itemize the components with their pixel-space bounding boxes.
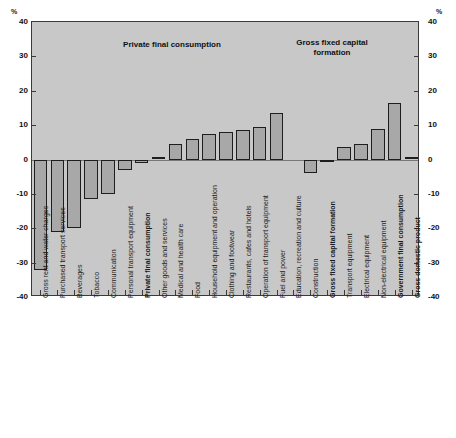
y-tick-mark <box>32 125 36 126</box>
bar[interactable] <box>388 103 401 160</box>
y-tick-label-left: 30 <box>4 51 28 60</box>
y-tick-mark <box>32 228 36 229</box>
x-axis-label: Clothing and footwear <box>228 230 235 298</box>
y-tick-mark <box>414 91 418 92</box>
x-axis-label: Government final consumption <box>397 195 404 298</box>
y-tick-label-right: -10 <box>428 188 452 197</box>
y-tick-mark <box>414 194 418 195</box>
x-axis-label: Personal transport equipment <box>127 206 134 298</box>
y-tick-mark <box>32 194 36 195</box>
y-tick-label-right: -40 <box>428 292 452 301</box>
y-axis-unit-right: % <box>436 8 442 15</box>
x-tick-mark <box>159 290 160 295</box>
y-tick-label-left: -10 <box>4 188 28 197</box>
y-tick-label-right: -20 <box>428 223 452 232</box>
x-tick-mark <box>344 290 345 295</box>
x-axis-label: Transport equipment <box>346 234 353 298</box>
x-axis-label: Education, recreation and culture <box>295 195 302 298</box>
y-tick-mark <box>414 56 418 57</box>
x-tick-mark <box>243 290 244 295</box>
y-tick-label-left: -20 <box>4 223 28 232</box>
bar[interactable] <box>118 160 131 170</box>
y-tick-label-right: 0 <box>428 154 452 163</box>
x-tick-mark <box>125 290 126 295</box>
bar[interactable] <box>219 132 232 160</box>
bar[interactable] <box>405 157 418 159</box>
bar[interactable] <box>67 160 80 229</box>
x-axis-label: Food <box>194 282 201 298</box>
bar[interactable] <box>84 160 97 200</box>
bar[interactable] <box>320 160 333 162</box>
x-tick-mark <box>395 290 396 295</box>
x-tick-mark <box>226 290 227 295</box>
y-tick-label-left: -30 <box>4 257 28 266</box>
bar[interactable] <box>270 113 283 159</box>
x-axis-label: Operation of transport equipment <box>262 195 269 298</box>
x-axis-label: Medical and health care <box>177 224 184 298</box>
y-tick-label-left: 10 <box>4 120 28 129</box>
bar[interactable] <box>304 160 317 174</box>
x-axis-category-labels: Gross rent and water chargesPurchased tr… <box>31 298 419 438</box>
bar[interactable] <box>101 160 114 194</box>
x-axis-label: Fuel and power <box>279 250 286 298</box>
x-tick-mark <box>361 290 362 295</box>
x-tick-mark <box>277 290 278 295</box>
y-tick-label-right: 30 <box>428 51 452 60</box>
x-axis-label: Electrical equipment <box>363 235 370 298</box>
bar[interactable] <box>354 144 367 159</box>
y-tick-mark <box>414 125 418 126</box>
group-label-private-final-consumption: Private final consumption <box>92 40 252 50</box>
y-tick-mark <box>32 56 36 57</box>
y-tick-label-right: 10 <box>428 120 452 129</box>
x-axis-label: Construction <box>312 259 319 298</box>
x-tick-mark <box>412 290 413 295</box>
x-axis-label: Beverages <box>76 265 83 298</box>
bar[interactable] <box>337 147 350 159</box>
x-axis-label: Other goods and services <box>161 218 168 298</box>
bar[interactable] <box>202 134 215 160</box>
x-axis-label: Private final consumption <box>144 212 151 298</box>
y-tick-mark <box>32 263 36 264</box>
y-tick-label-right: -30 <box>428 257 452 266</box>
x-axis-label: Purchased transport services <box>59 207 66 298</box>
y-tick-label-left: 0 <box>4 154 28 163</box>
bar[interactable] <box>135 160 148 163</box>
y-tick-mark <box>32 91 36 92</box>
x-tick-mark <box>209 290 210 295</box>
x-tick-mark <box>108 290 109 295</box>
x-tick-mark <box>378 290 379 295</box>
x-axis-label: Communication <box>110 249 117 298</box>
plot-area: Private final consumption Gross fixed ca… <box>31 21 419 296</box>
bar[interactable] <box>236 130 249 159</box>
group-label-gross-fixed-capital-formation: Gross fixed capital formation <box>277 38 387 58</box>
x-axis-label: Gross rent and water charges <box>42 206 49 298</box>
y-tick-label-left: -40 <box>4 292 28 301</box>
x-axis-label: Restaurants, cafes and hotels <box>245 205 252 298</box>
x-axis-label: Gross domestic product <box>414 217 421 298</box>
y-tick-label-right: 40 <box>428 17 452 26</box>
y-tick-label-right: 20 <box>428 85 452 94</box>
chart-root: % % Private final consumption Gross fixe… <box>0 0 456 438</box>
bar[interactable] <box>186 139 199 160</box>
x-tick-mark <box>91 290 92 295</box>
y-tick-label-left: 40 <box>4 17 28 26</box>
bar[interactable] <box>371 129 384 160</box>
x-axis-label: Gross fixed capital formation <box>329 201 336 298</box>
x-axis-label: Household equipment and operation <box>211 185 218 298</box>
bar[interactable] <box>152 157 165 159</box>
bar[interactable] <box>169 144 182 159</box>
y-axis-unit-left: % <box>11 8 17 15</box>
x-tick-mark <box>142 290 143 295</box>
x-axis-label: Non-electrical equipment <box>380 221 387 298</box>
bar[interactable] <box>253 127 266 160</box>
x-axis-label: Tobacco <box>93 272 100 298</box>
x-tick-mark <box>260 290 261 295</box>
y-tick-label-left: 20 <box>4 85 28 94</box>
